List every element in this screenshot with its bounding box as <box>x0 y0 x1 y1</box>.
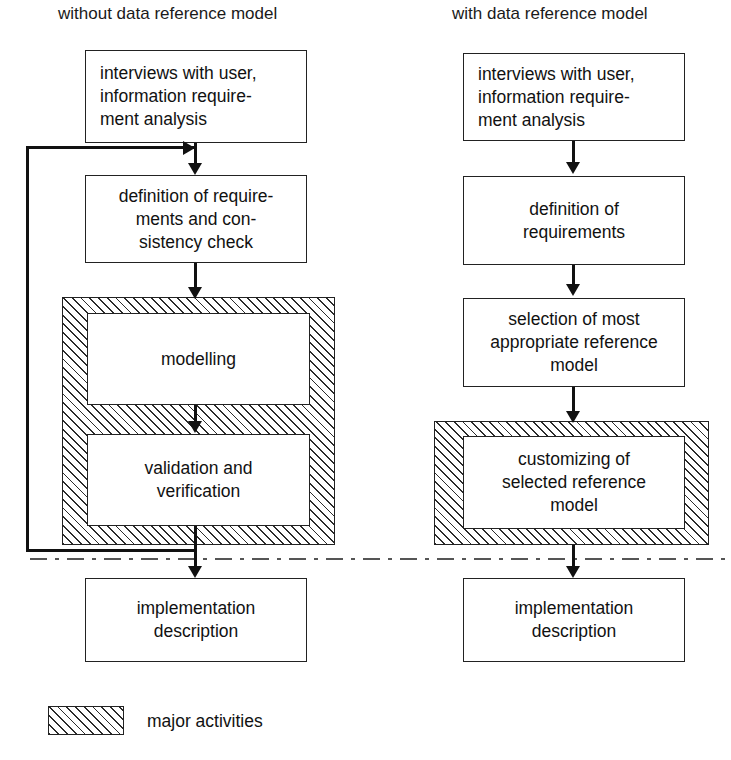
column-header-right: with data reference model <box>452 4 648 24</box>
arrow-left-definition-to-modelling <box>194 263 197 290</box>
node-right-selection-line3: model <box>464 354 684 377</box>
arrowhead-icon-left-1 <box>188 163 202 175</box>
arrowhead-icon-right-2 <box>566 284 580 296</box>
node-left-validation: validation and verification <box>87 434 310 526</box>
node-right-customizing-line2: selected reference <box>464 471 684 494</box>
node-right-implementation-line2: description <box>464 620 684 643</box>
node-left-modelling-line1: modelling <box>88 348 309 371</box>
node-right-selection: selection of most appropriate reference … <box>463 298 685 387</box>
node-left-interviews-line3: ment analysis <box>100 108 306 131</box>
arrowhead-icon-right-1 <box>566 162 580 174</box>
legend-hatched-swatch-icon <box>48 706 124 735</box>
phase-separator-line <box>30 558 731 560</box>
node-right-interviews-line1: interviews with user, <box>478 63 684 86</box>
node-left-modelling: modelling <box>87 313 310 405</box>
node-right-definition-line2: requirements <box>464 221 684 244</box>
arrowhead-icon-right-3 <box>566 411 580 423</box>
node-right-interviews: interviews with user, information requir… <box>463 53 685 141</box>
feedback-arrow-bottom-segment <box>26 549 196 552</box>
node-left-definition-line3: sistency check <box>86 231 306 254</box>
node-left-interviews-line2: information require- <box>100 85 306 108</box>
node-left-definition-line2: ments and con- <box>86 208 306 231</box>
node-right-selection-line2: appropriate reference <box>464 331 684 354</box>
node-left-validation-line2: verification <box>88 480 309 503</box>
node-right-interviews-line3: ment analysis <box>478 109 684 132</box>
node-right-implementation-line1: implementation <box>464 597 684 620</box>
node-left-implementation-line1: implementation <box>86 597 306 620</box>
arrowhead-icon-left-4 <box>188 566 202 578</box>
node-right-customizing-line1: customizing of <box>464 448 684 471</box>
arrowhead-icon-left-3 <box>188 421 202 433</box>
arrow-right-selection-to-customizing <box>572 387 575 414</box>
node-right-customizing-line3: model <box>464 494 684 517</box>
column-header-left: without data reference model <box>58 4 277 24</box>
feedback-arrow-top-segment <box>26 146 195 149</box>
feedback-arrowhead-icon <box>183 141 195 155</box>
node-left-validation-line1: validation and <box>88 457 309 480</box>
arrowhead-icon-left-2 <box>188 287 202 299</box>
node-left-interviews: interviews with user, information requir… <box>85 50 307 143</box>
node-right-implementation: implementation description <box>463 578 685 662</box>
node-right-definition: definition of requirements <box>463 176 685 265</box>
flowchart-diagram: without data reference model with data r… <box>0 0 731 760</box>
feedback-arrow-left-rail <box>26 146 29 552</box>
node-right-definition-line1: definition of <box>464 198 684 221</box>
node-right-selection-line1: selection of most <box>464 308 684 331</box>
node-left-interviews-line1: interviews with user, <box>100 62 306 85</box>
node-left-definition-line1: definition of require- <box>86 185 306 208</box>
node-left-definition: definition of require- ments and con- si… <box>85 175 307 263</box>
node-right-interviews-line2: information require- <box>478 86 684 109</box>
arrowhead-icon-right-4 <box>566 566 580 578</box>
node-right-customizing: customizing of selected reference model <box>463 436 685 529</box>
node-left-implementation-line2: description <box>86 620 306 643</box>
legend-label-major-activities: major activities <box>147 711 263 731</box>
node-left-implementation: implementation description <box>85 578 307 662</box>
